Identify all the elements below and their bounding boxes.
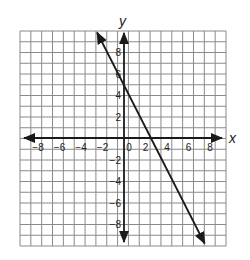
y-tick-label: −4	[110, 176, 122, 187]
x-tick-label: 2	[143, 142, 149, 153]
coordinate-plane: −8−6−4−2024688642−2−4−6−8 x y	[0, 0, 250, 260]
axes	[24, 33, 222, 242]
y-tick-label: −2	[110, 155, 122, 166]
x-tick-label: 6	[186, 142, 192, 153]
x-tick-label: 8	[207, 142, 213, 153]
x-tick-label: 0	[126, 142, 132, 153]
y-tick-label: −8	[110, 219, 122, 230]
x-axis-label: x	[228, 130, 237, 146]
x-tick-label: −2	[97, 142, 109, 153]
x-tick-label: 4	[164, 142, 170, 153]
y-tick-label: −6	[110, 198, 122, 209]
x-tick-label: −4	[75, 142, 87, 153]
y-axis-label: y	[118, 13, 127, 29]
y-tick-label: 4	[115, 90, 121, 101]
y-tick-label: 8	[115, 47, 121, 58]
y-tick-label: 2	[115, 112, 121, 123]
x-tick-label: −6	[54, 142, 66, 153]
x-tick-label: −8	[32, 142, 44, 153]
